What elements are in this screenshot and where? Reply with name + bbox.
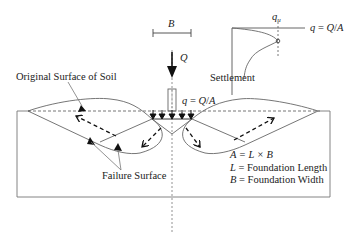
bearing-capacity-diagram: Q B q = Q/A qu q = Q/A Settlement Origin… <box>0 0 354 238</box>
pressure-label: q = Q/A <box>182 95 216 106</box>
load-arrow <box>167 52 177 78</box>
svg-text:L = Foundation Length: L = Foundation Length <box>229 162 328 173</box>
pressure-arrows <box>150 110 194 119</box>
inset-x-axis-label: q = Q/A <box>310 22 344 33</box>
settlement-label: Settlement <box>210 72 255 83</box>
svg-text:B = Foundation Width: B = Foundation Width <box>230 174 324 185</box>
original-surface-label: Original Surface of Soil <box>16 71 117 82</box>
width-dimension <box>153 29 191 37</box>
width-label: B <box>168 18 175 29</box>
leader-lines <box>68 82 121 170</box>
ultimate-load-label: qu <box>272 11 281 24</box>
legend: A = L × B L = Foundation Length B = Foun… <box>229 149 328 185</box>
svg-text:A = L × B: A = L × B <box>229 149 274 160</box>
failure-surface-label: Failure Surface <box>102 170 167 181</box>
load-label: Q <box>180 52 188 63</box>
load-settlement-plot <box>232 22 305 95</box>
